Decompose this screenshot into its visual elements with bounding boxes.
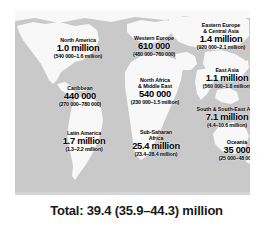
region-label-sub-saharan-africa: Sub-Saharan Africa 25.4 million (23.4–28… xyxy=(132,130,180,158)
region-range-north-africa-middle-east: (230 000–1.5 million) xyxy=(131,100,179,106)
region-range-eastern-europe-central-asia: (920 000–2.1 million) xyxy=(197,45,245,51)
region-label-north-america: North America 1.0 million (540 000–1.6 m… xyxy=(54,38,102,60)
region-range-sub-saharan-africa: (23.4–28.4 million) xyxy=(132,152,180,158)
world-map-panel: North America 1.0 million (540 000–1.6 m… xyxy=(15,10,250,195)
land-antarctica xyxy=(15,192,250,195)
region-range-south-south-east-asia: (4.4–10.6 million) xyxy=(196,123,250,129)
region-label-western-europe: Western Europe 610 000 (480 000–760 000) xyxy=(133,36,175,58)
total-caption: Total: 39.4 (35.9–44.3) million xyxy=(0,203,273,218)
region-range-western-europe: (480 000–760 000) xyxy=(133,52,175,58)
region-label-east-asia: East Asia 1.1 million (560 000–1.8 milli… xyxy=(203,68,250,90)
region-range-latin-america: (1.3–2.2 million) xyxy=(63,147,106,153)
region-label-north-africa-middle-east: North Africa & Middle East 540 000 (230 … xyxy=(131,78,179,106)
region-range-north-america: (540 000–1.6 million) xyxy=(54,54,102,60)
region-range-caribbean: (270 000–780 000) xyxy=(59,102,101,108)
region-range-east-asia: (560 000–1.8 million) xyxy=(203,84,250,90)
region-label-caribbean: Caribbean 440 000 (270 000–780 000) xyxy=(59,86,101,108)
hiv-world-map-figure: North America 1.0 million (540 000–1.6 m… xyxy=(0,0,273,235)
region-range-oceania: (25 000–48 000) xyxy=(219,156,250,162)
region-label-latin-america: Latin America 1.7 million (1.3–2.2 milli… xyxy=(63,131,106,153)
region-label-oceania: Oceania 35 000 (25 000–48 000) xyxy=(219,140,250,162)
region-label-south-south-east-asia: South & South-East Asia 7.1 million (4.4… xyxy=(196,107,250,129)
region-label-eastern-europe-central-asia: Eastern Europe & Central Asia 1.4 millio… xyxy=(197,23,245,51)
